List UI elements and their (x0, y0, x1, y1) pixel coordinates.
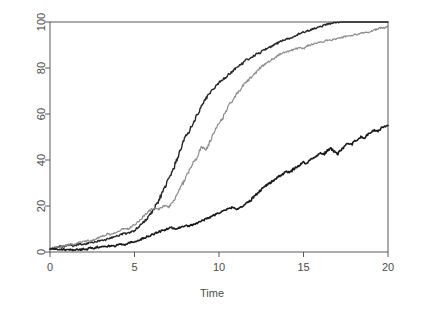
x-tick-label: 10 (213, 261, 225, 273)
y-tick-label: 80 (35, 62, 47, 74)
chart-figure: 020406080100 05101520 Time (0, 0, 424, 314)
x-tick-label: 15 (297, 261, 309, 273)
x-tick-label: 20 (382, 261, 394, 273)
y-tick-label: 20 (35, 200, 47, 212)
x-axis-title: Time (200, 287, 224, 299)
y-tick-label: 40 (35, 154, 47, 166)
y-tick-label: 0 (35, 249, 47, 255)
x-tick-label: 0 (47, 261, 53, 273)
x-tick-label: 5 (131, 261, 137, 273)
line-chart-canvas: 020406080100 05101520 Time (0, 0, 424, 314)
y-tick-label: 100 (35, 13, 47, 31)
y-tick-label: 60 (35, 108, 47, 120)
